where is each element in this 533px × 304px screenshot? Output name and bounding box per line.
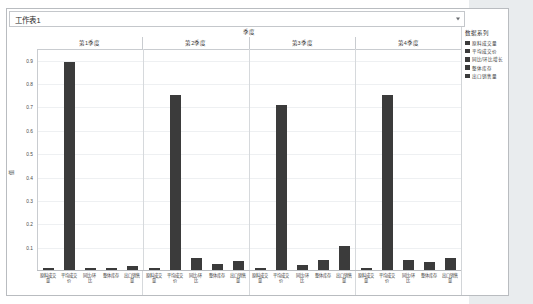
y-axis-tick-label: 0.7	[26, 105, 33, 110]
supergroup-header: 季度	[37, 27, 461, 37]
y-axis-tick-label: 0.1	[26, 245, 33, 250]
y-axis-ticks: 0.90.80.70.60.50.40.30.20.1	[15, 49, 35, 271]
bar[interactable]	[170, 95, 181, 271]
group-header: 第4季度	[355, 37, 461, 49]
legend-color-swatch	[465, 65, 470, 70]
bar[interactable]	[339, 246, 350, 271]
x-axis-tick-label: 出口销售量	[124, 273, 140, 295]
x-axis-tick-label: 整体库存	[315, 273, 331, 295]
bar[interactable]	[64, 62, 75, 271]
y-axis-tick-label: 0.5	[26, 152, 33, 157]
x-axis-tick-label: 同比/环比	[294, 273, 310, 295]
window-body: 季度 第1季度第2季度第3季度第4季度 值 0.90.80.70.60.50.4…	[7, 27, 508, 295]
legend-items: 原料成交量平均成交价同比/环比增长整体库存出口销售量	[465, 40, 506, 79]
legend-item-label: 原料成交量	[472, 40, 497, 46]
legend-item[interactable]: 同比/环比增长	[465, 56, 506, 62]
x-axis-tick-label: 原料成交量	[252, 273, 268, 295]
bar-group	[143, 49, 249, 271]
x-axis-tick-label: 出口销售量	[230, 273, 246, 295]
x-axis-tick-label: 原料成交量	[358, 273, 374, 295]
x-axis-tick-label: 出口销售量	[442, 273, 458, 295]
x-axis-tick-label: 平均成交价	[61, 273, 77, 295]
window-topbar: 工作表1	[7, 9, 508, 25]
y-axis-tick-label: 0.6	[26, 128, 33, 133]
x-axis-tick-label: 原料成交量	[40, 273, 56, 295]
plot-area	[37, 49, 461, 271]
bar-group	[38, 49, 143, 271]
scanned-page: 工作表1 季度 第1季度第2季度第3季度第4季度 值 0.90.80.70.60…	[0, 0, 533, 304]
group-header: 第1季度	[37, 37, 142, 49]
legend-item-label: 出口销售量	[472, 73, 497, 79]
legend-color-swatch	[465, 57, 470, 62]
y-axis-tick-label: 0.3	[26, 198, 33, 203]
x-axis-tick-label: 同比/环比	[82, 273, 98, 295]
x-axis-tick-label: 整体库存	[103, 273, 119, 295]
x-axis-tick-label: 同比/环比	[400, 273, 416, 295]
legend-item-label: 整体库存	[472, 65, 492, 71]
group-header: 第3季度	[249, 37, 355, 49]
x-axis-group: 原料成交量平均成交价同比/环比整体库存出口销售量	[249, 271, 355, 295]
plot-wrapper: 值 0.90.80.70.60.50.40.30.20.1 原料成交量平均成交价…	[7, 49, 461, 295]
legend-item[interactable]: 平均成交价	[465, 48, 506, 54]
legend-item[interactable]: 出口销售量	[465, 73, 506, 79]
legend-item[interactable]: 整体库存	[465, 65, 506, 71]
legend-item-label: 平均成交价	[472, 48, 497, 54]
y-axis-tick-label: 0.9	[26, 58, 33, 63]
x-axis-group: 原料成交量平均成交价同比/环比整体库存出口销售量	[142, 271, 248, 295]
bar-group	[355, 49, 461, 271]
x-axis-tick-label: 同比/环比	[188, 273, 204, 295]
x-axis-tick-label: 原料成交量	[146, 273, 162, 295]
x-axis-labels: 原料成交量平均成交价同比/环比整体库存出口销售量原料成交量平均成交价同比/环比整…	[37, 270, 461, 295]
x-axis-tick-label: 整体库存	[421, 273, 437, 295]
y-axis-tick-label: 0.2	[26, 222, 33, 227]
legend-color-swatch	[465, 41, 470, 46]
y-axis-tick-label: 0.4	[26, 175, 33, 180]
chart-window: 工作表1 季度 第1季度第2季度第3季度第4季度 值 0.90.80.70.60…	[6, 8, 509, 296]
x-axis-group: 原料成交量平均成交价同比/环比整体库存出口销售量	[37, 271, 142, 295]
x-axis-tick-label: 平均成交价	[167, 273, 183, 295]
x-axis-tick-label: 出口销售量	[336, 273, 352, 295]
y-axis-title: 值	[7, 170, 14, 175]
legend-item[interactable]: 原料成交量	[465, 40, 506, 46]
legend-color-swatch	[465, 74, 470, 79]
x-axis-group: 原料成交量平均成交价同比/环比整体库存出口销售量	[355, 271, 461, 295]
bar-group	[249, 49, 355, 271]
chart-panel: 季度 第1季度第2季度第3季度第4季度 值 0.90.80.70.60.50.4…	[7, 27, 462, 295]
bar[interactable]	[382, 95, 393, 271]
bar-groups	[38, 49, 461, 271]
sheet-selector-value: 工作表1	[10, 14, 41, 25]
y-axis-tick-label: 0.8	[26, 82, 33, 87]
chevron-down-icon[interactable]	[456, 18, 460, 21]
group-header: 第2季度	[142, 37, 248, 49]
legend-title: 数据系列	[465, 29, 506, 37]
sheet-selector-dropdown[interactable]: 工作表1	[9, 11, 465, 27]
bar[interactable]	[276, 105, 287, 271]
x-axis-tick-label: 平均成交价	[273, 273, 289, 295]
legend-color-swatch	[465, 49, 470, 54]
x-axis-tick-label: 整体库存	[209, 273, 225, 295]
legend-panel: 数据系列 原料成交量平均成交价同比/环比增长整体库存出口销售量	[462, 27, 508, 295]
x-axis-tick-label: 平均成交价	[379, 273, 395, 295]
legend-item-label: 同比/环比增长	[472, 56, 504, 62]
